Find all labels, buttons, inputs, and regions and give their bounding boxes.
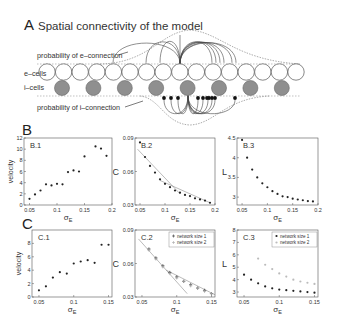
y-tick-label: 0.09 <box>123 135 134 141</box>
y-tick-label: 0.09 <box>123 227 134 233</box>
plot-title: C.3 <box>243 233 255 242</box>
y-tick-label: 12 <box>16 135 22 141</box>
data-point <box>264 285 266 287</box>
y-tick-label: 7 <box>232 239 235 245</box>
data-point <box>45 183 47 185</box>
data-point <box>246 157 248 159</box>
plot-title: C.2 <box>141 233 153 242</box>
data-point <box>87 259 89 261</box>
data-point <box>182 280 185 283</box>
y-tick-label: 6 <box>19 169 22 175</box>
data-point <box>67 171 69 173</box>
y-tick-label: 5 <box>232 264 235 270</box>
y-tick-label: 4 <box>232 277 235 283</box>
x-axis-label: σE <box>68 305 77 315</box>
charts-area: B C 0.050.10.150.2024681012B.1σEvelocity… <box>0 0 338 328</box>
data-point <box>292 198 294 200</box>
data-point <box>59 271 61 273</box>
data-point <box>72 169 74 171</box>
data-point <box>243 274 245 276</box>
data-point <box>312 200 314 202</box>
data-point <box>196 286 199 289</box>
data-point <box>292 290 294 292</box>
x-tick-label: 0.05 <box>237 207 248 213</box>
x-tick-label: 0.05 <box>239 299 250 305</box>
legend-entry: network size 1 <box>280 234 310 239</box>
x-axis-label: σE <box>171 213 180 223</box>
data-point <box>313 283 315 285</box>
data-point <box>164 183 166 185</box>
figure: A Spatial connectivity of the model prob… <box>0 0 338 328</box>
data-point <box>287 196 289 198</box>
data-point <box>194 197 196 199</box>
data-point <box>199 198 201 200</box>
data-point <box>159 178 161 180</box>
data-point <box>61 183 63 185</box>
x-tick-label: 0.05 <box>24 207 35 213</box>
y-tick-label: 6 <box>27 254 30 260</box>
y-tick-label: 8 <box>19 157 22 163</box>
y-tick-label: 4.5 <box>228 135 236 141</box>
y-tick-label: 3 <box>232 194 235 200</box>
plot-b-3: 0.050.10.150.233.544.5B.3σEL <box>222 135 322 223</box>
y-tick-label: 4 <box>232 155 235 161</box>
data-point <box>174 189 176 191</box>
data-point <box>169 186 171 188</box>
plot-title: B.3 <box>243 141 254 150</box>
data-point <box>266 186 268 188</box>
plot-title: B.2 <box>141 141 152 150</box>
data-point <box>52 276 54 278</box>
x-tick-label: 0.1 <box>264 207 272 213</box>
y-tick-label: 0.06 <box>123 261 134 267</box>
data-point <box>100 244 102 246</box>
plot-c-1: 0.050.10.1502468C.1σEvelocity <box>15 230 114 315</box>
legend-entry: network size 2 <box>177 240 207 245</box>
y-axis-label: C <box>113 259 120 269</box>
data-point <box>38 289 40 291</box>
data-point <box>302 199 304 201</box>
y-axis-label: L <box>222 167 227 177</box>
data-point <box>204 199 206 201</box>
y-tick-label: 8 <box>27 240 30 246</box>
y-tick-label: 4 <box>27 267 30 273</box>
data-point <box>281 195 283 197</box>
x-axis-label: σE <box>273 305 282 315</box>
data-point <box>285 289 287 291</box>
data-point <box>299 280 301 282</box>
data-point <box>307 200 309 202</box>
data-point <box>271 190 273 192</box>
data-point <box>83 155 85 157</box>
data-point <box>189 195 191 197</box>
y-tick-label: 0.03 <box>123 202 134 208</box>
data-point <box>45 285 47 287</box>
y-axis-label: L <box>222 259 227 269</box>
legend-entry: network size 1 <box>177 234 207 239</box>
x-tick-label: 0.15 <box>287 207 298 213</box>
data-point <box>56 183 58 185</box>
data-point <box>94 145 96 147</box>
data-point <box>257 282 259 284</box>
y-axis-label: velocity <box>15 251 23 275</box>
data-point <box>39 189 41 191</box>
x-tick-label: 0.2 <box>211 207 219 213</box>
data-point <box>105 155 107 157</box>
data-point <box>250 279 252 281</box>
data-point <box>241 139 243 141</box>
x-tick-label: 0.15 <box>103 299 114 305</box>
x-tick-label: 0.2 <box>108 207 116 213</box>
data-point <box>306 291 308 293</box>
data-point <box>261 182 263 184</box>
y-tick-label: 0 <box>19 202 22 208</box>
fit-line <box>138 149 181 194</box>
data-point <box>73 262 75 264</box>
data-point <box>251 168 253 170</box>
x-tick-label: 0.15 <box>309 299 320 305</box>
y-axis-label: velocity <box>7 159 15 183</box>
data-point <box>271 287 273 289</box>
x-axis-label: σE <box>64 213 73 223</box>
x-axis-label: σE <box>273 213 282 223</box>
x-tick-label: 0.05 <box>34 299 45 305</box>
y-tick-label: 2 <box>27 281 30 287</box>
data-point <box>28 198 30 200</box>
data-point <box>306 282 308 284</box>
